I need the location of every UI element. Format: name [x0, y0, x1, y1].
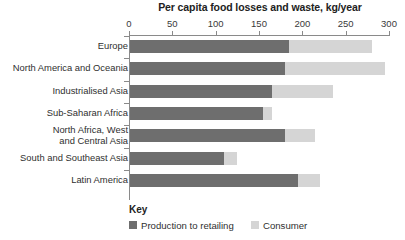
stacked-bar — [129, 107, 389, 120]
legend-item[interactable]: Consumer — [251, 219, 307, 231]
bar-segment — [129, 40, 289, 53]
bar-segment — [129, 174, 298, 187]
x-tick-label: 50 — [167, 18, 178, 29]
x-tick-label: 250 — [338, 18, 354, 29]
legend-label: Consumer — [263, 220, 307, 231]
chart-row: Latin America — [0, 170, 405, 192]
category-label: Industrialised Asia — [4, 86, 128, 97]
bar-segment — [224, 152, 237, 165]
chart-row: North Africa, Westand Central Asia — [0, 125, 405, 147]
bar-segment — [129, 85, 272, 98]
stacked-bar — [129, 62, 389, 75]
category-label: Sub-Saharan Africa — [4, 108, 128, 119]
y-axis-line — [129, 36, 130, 200]
legend-swatch-icon — [129, 221, 137, 229]
legend-item[interactable]: Production to retailing — [129, 219, 234, 231]
category-label: Latin America — [4, 175, 128, 186]
x-tick-label: 200 — [294, 18, 310, 29]
stacked-bar — [129, 152, 389, 165]
bar-segment — [272, 85, 333, 98]
plot-area: EuropeNorth America and OceaniaIndustria… — [0, 36, 405, 196]
bar-segment — [129, 129, 285, 142]
x-tick-label: 300 — [381, 18, 397, 29]
chart-row: South and Southeast Asia — [0, 148, 405, 170]
chart-figure: Per capita food losses and waste, kg/yea… — [0, 0, 405, 240]
chart-legend: Key Production to retailingConsumer — [129, 204, 399, 238]
bar-segment — [129, 107, 263, 120]
stacked-bar — [129, 85, 389, 98]
stacked-bar — [129, 40, 389, 53]
bar-segment — [285, 129, 315, 142]
category-label: North Africa, Westand Central Asia — [4, 125, 128, 146]
bar-segment — [263, 107, 272, 120]
category-label: Europe — [4, 41, 128, 52]
bar-segment — [285, 62, 385, 75]
x-tick-label: 0 — [126, 18, 131, 29]
chart-row: North America and Oceania — [0, 58, 405, 80]
bar-segment — [129, 152, 224, 165]
bar-segment — [289, 40, 371, 53]
chart-row: Sub-Saharan Africa — [0, 103, 405, 125]
x-tick-label: 100 — [208, 18, 224, 29]
chart-title: Per capita food losses and waste, kg/yea… — [129, 1, 391, 13]
category-label: North America and Oceania — [4, 63, 128, 74]
legend-swatch-icon — [251, 221, 259, 229]
stacked-bar — [129, 129, 389, 142]
legend-title: Key — [129, 204, 147, 215]
bar-segment — [298, 174, 320, 187]
chart-row: Industrialised Asia — [0, 81, 405, 103]
x-tick-label: 150 — [251, 18, 267, 29]
x-axis: 050100150200250300 — [129, 18, 389, 36]
category-label: South and Southeast Asia — [4, 153, 128, 164]
bar-segment — [129, 62, 285, 75]
chart-row: Europe — [0, 36, 405, 58]
legend-label: Production to retailing — [141, 220, 234, 231]
stacked-bar — [129, 174, 389, 187]
